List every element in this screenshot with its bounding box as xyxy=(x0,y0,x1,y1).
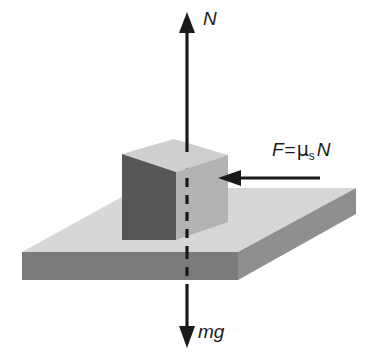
weight-arrow-head xyxy=(179,326,195,348)
friction-force-arrow xyxy=(218,170,320,186)
friction-label-mu: μ xyxy=(297,138,309,160)
normal-arrow-head xyxy=(179,12,195,33)
slab-front-face xyxy=(22,252,238,280)
physics-diagram: N mg F=μsN xyxy=(0,0,374,359)
normal-force-label: N xyxy=(203,9,217,28)
block-cube xyxy=(122,139,228,240)
friction-force-label: F=μsN xyxy=(272,140,331,162)
weight-force-arrow xyxy=(179,286,195,348)
normal-force-arrow xyxy=(179,12,195,152)
friction-label-equals: = xyxy=(284,139,297,160)
friction-label-F: F xyxy=(272,139,284,160)
friction-label-mu-subscript: s xyxy=(309,149,315,163)
friction-label-N: N xyxy=(315,139,331,160)
weight-force-label: mg xyxy=(198,322,224,341)
diagram-canvas xyxy=(0,0,374,359)
